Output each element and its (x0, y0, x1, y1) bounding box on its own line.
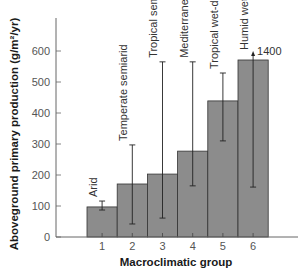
arrow-up-icon (251, 51, 255, 56)
category-label: Arid (87, 177, 99, 197)
y-tick-label: 500 (32, 76, 50, 88)
x-axis-title: Macroclimatic group (120, 256, 232, 268)
x-tick-label: 5 (220, 240, 226, 252)
bar-1 (87, 207, 117, 237)
x-tick-label: 6 (250, 240, 256, 252)
off-scale-annotation: 1400 (257, 45, 281, 57)
x-tick-label: 3 (159, 240, 165, 252)
category-label: Temperate semiarid (117, 44, 129, 141)
y-ticks-group: 0100200300400500600 (32, 45, 61, 243)
y-tick-label: 100 (32, 200, 50, 212)
bars-group (87, 60, 268, 237)
x-tick-label: 1 (99, 240, 105, 252)
y-tick-label: 300 (32, 138, 50, 150)
x-tick-label: 4 (190, 240, 196, 252)
bar-chart: AridTemperate semiaridTropical semiaridM… (0, 0, 308, 279)
y-tick-label: 200 (32, 169, 50, 181)
x-tick-label: 2 (129, 240, 135, 252)
category-label: Humid wet (238, 0, 250, 50)
y-tick-label: 600 (32, 45, 50, 57)
category-label: Tropical semiarid (148, 0, 160, 58)
category-label: Tropical wet-dry (208, 0, 220, 69)
y-tick-label: 0 (44, 231, 50, 243)
category-label: Mediterranean (178, 0, 190, 58)
y-axis-title: Aboveground primary production (g/m²/yr) (8, 18, 20, 251)
annotation-group: 1400 (257, 45, 281, 57)
y-tick-label: 400 (32, 107, 50, 119)
